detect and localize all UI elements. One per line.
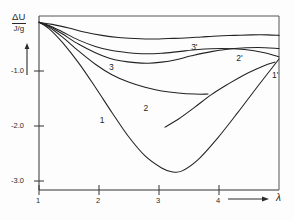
curve-2-prime <box>39 22 279 57</box>
curve-label-3: 3 <box>109 62 114 72</box>
y-tick-label-minus2: -2.0 <box>11 121 24 130</box>
x-tick-label-4: 4 <box>216 196 220 205</box>
curve-label-1-prime: 1' <box>272 70 278 80</box>
y-axis-arrow-head <box>25 43 30 49</box>
x-axis-label: λ <box>276 192 281 203</box>
curve-label-2-prime: 2' <box>236 53 242 63</box>
curve-label-2: 2 <box>143 103 148 113</box>
x-tick-label-2: 2 <box>96 196 100 205</box>
figure-container: ΔU J/g -1.0 -2.0 -3.0 1 2 3 4 λ <box>0 0 294 220</box>
curve-1 <box>39 22 279 172</box>
y-tick-label-minus3: -3.0 <box>11 176 24 185</box>
x-axis-arrow-head <box>262 196 269 201</box>
y-tick-label-minus1: -1.0 <box>11 66 24 75</box>
curves-group <box>39 22 279 172</box>
curve-3-prime <box>39 22 279 39</box>
curve-1-prime <box>165 62 275 127</box>
curve-3 <box>39 22 279 63</box>
x-tick-label-1: 1 <box>36 196 40 205</box>
curve-label-1: 1 <box>100 115 105 125</box>
x-tick-label-3: 3 <box>156 196 160 205</box>
curve-label-3-prime: 3' <box>191 42 197 52</box>
